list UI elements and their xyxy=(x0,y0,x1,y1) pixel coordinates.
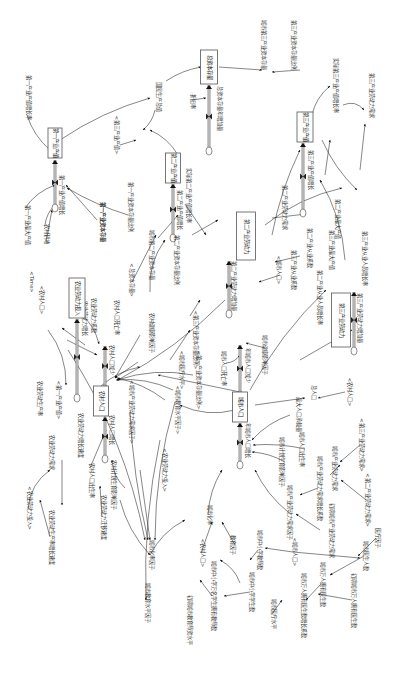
variable-label: <农村人口> xyxy=(346,378,354,407)
variable-label: <第三产业劳动力需求> xyxy=(358,418,366,472)
causal-link-arrow xyxy=(118,300,225,380)
stock-label: 第三产业产值 xyxy=(302,112,310,143)
causal-link-arrow xyxy=(318,392,345,398)
variable-label: 城市万人拥有医生数 xyxy=(319,562,327,608)
variable-label: 农村健康影响因子 xyxy=(148,313,156,353)
variable-label: 城市中小学学生数 xyxy=(248,572,256,613)
flow-label: 第三产业产值增长 xyxy=(307,150,315,191)
variable-label: 国民生产总值 xyxy=(155,82,163,112)
flow-urban_in xyxy=(237,423,243,469)
flow-label: 总资本存量年增加量 xyxy=(216,86,224,131)
variable-label: <农村人口> xyxy=(199,539,207,568)
variable-label: 城市产业劳动力需求增长系数 xyxy=(316,456,324,522)
causal-link-arrow xyxy=(340,445,360,462)
source-cloud-icon xyxy=(102,455,108,463)
variable-label: <第一产业产值> xyxy=(55,381,63,420)
variable-label: 农业劳动生产率 xyxy=(36,381,44,416)
causal-link-arrow xyxy=(272,70,300,72)
causal-link-arrow xyxy=(325,140,330,175)
variable-label: 农村人口出生率 xyxy=(88,463,96,498)
stock-label: 第三产业劳动力 xyxy=(338,303,346,338)
variable-label: 农业劳动力增长速度 xyxy=(77,413,85,458)
source-cloud-icon xyxy=(52,204,58,212)
flow-label: 第三产业劳动力增加量 xyxy=(356,293,364,343)
stock-gdp1: 第一产业产值 xyxy=(48,128,62,159)
causal-link-arrow xyxy=(67,188,128,215)
system-dynamics-diagram: 第一产业产值增长总资本存量年增加量第二产业产值增长第三产业产值增长农业劳动力增长… xyxy=(0,0,400,684)
causal-link-arrow xyxy=(253,445,305,449)
causal-link-arrow xyxy=(341,480,366,500)
variable-label: 城市化率因子 xyxy=(148,540,156,570)
stock-urban: 城市人口 xyxy=(233,392,248,422)
flow-arrowhead-icon xyxy=(206,85,212,89)
causal-link-arrow xyxy=(300,488,318,495)
variable-label: 城市教育水平因子 xyxy=(144,583,152,623)
variable-label: 城市医生人数 xyxy=(362,541,370,572)
variable-label: 城市医疗水平 xyxy=(270,599,278,629)
stock-label: 第二产业产值 xyxy=(170,153,178,184)
variable-label: 农业劳动力系数 xyxy=(90,298,98,334)
flow-arrowhead-icon xyxy=(170,184,176,188)
variable-label: <城市产业劳动力需求因子> xyxy=(128,380,136,444)
variable-label: 农业劳动力迁移速度 xyxy=(100,495,108,540)
variable-label: 城市第二产业资本存量 xyxy=(148,230,156,280)
flow-arrowhead-icon xyxy=(237,345,243,349)
variable-label: 教育因子 xyxy=(229,535,237,555)
variable-label: 农村耕地 xyxy=(43,224,51,244)
flow-arrowhead-icon xyxy=(102,417,108,421)
causal-link-arrow xyxy=(180,405,235,413)
causal-link-arrow xyxy=(306,584,321,600)
variable-label: 第一产业资本存量比例 xyxy=(127,182,135,232)
variable-label: <Time> xyxy=(29,271,35,292)
source-cloud-icon xyxy=(351,347,357,355)
causal-link-arrow xyxy=(150,130,178,155)
stock-label: 第一产业产值 xyxy=(52,128,60,159)
variable-label: 农业劳动力需求 xyxy=(48,435,56,471)
variable-label: <城市人口> xyxy=(275,256,283,285)
variable-label: 城市万人拥有医生数增长系数 xyxy=(300,573,308,639)
variable-label: 第一产业产值增长率 xyxy=(25,75,33,120)
variable-label: <第二产业劳动力需求> xyxy=(364,473,372,527)
causal-link-arrow xyxy=(146,440,160,600)
variable-label: 城市产业劳动力需求 xyxy=(331,446,339,492)
flow-labor3 xyxy=(351,292,357,355)
flow-label: 第二产业劳动力增加量 xyxy=(230,261,238,311)
source-cloud-icon xyxy=(237,461,243,469)
variable-label: 实际第三产业产值增长率 xyxy=(332,58,340,113)
variable-label: 第三产业劳动力需求 xyxy=(368,73,376,119)
flow-urban_out xyxy=(237,345,243,399)
causal-link-arrow xyxy=(40,500,50,537)
variable-label: 城市人口死亡率 xyxy=(220,351,228,386)
variable-label: 农村人口死亡率 xyxy=(113,300,121,335)
causal-link-arrow xyxy=(116,379,173,390)
causal-link-arrow xyxy=(250,550,258,560)
variable-label: <总资本存量> xyxy=(128,263,136,297)
variable-label: 第二产业资本存量比例 xyxy=(173,235,181,285)
variable-label: 城市计划生育影响因子 xyxy=(278,437,286,487)
causal-link-arrow xyxy=(120,140,136,145)
flow-arrowhead-icon xyxy=(52,160,58,164)
variable-label: <城市医疗水平> xyxy=(178,351,186,390)
causal-link-arrow xyxy=(166,67,201,81)
stock-labor3: 第三产业劳动力 xyxy=(332,293,351,347)
causal-link-arrow xyxy=(360,124,365,170)
stock-rural: 农村人口 xyxy=(94,386,109,416)
flow-arrowhead-icon xyxy=(74,319,80,323)
causal-link-arrow xyxy=(226,355,240,363)
variable-label: 第二产业最大产值 xyxy=(334,199,342,239)
flow-arrowhead-icon xyxy=(102,346,108,350)
causal-link-arrow xyxy=(265,548,293,552)
flow-capital xyxy=(206,85,212,155)
causal-link-arrow xyxy=(117,378,165,400)
flow-gdp3 xyxy=(300,143,306,217)
variable-label: 最大人口承载量 xyxy=(295,397,303,432)
variable-label: 第三产业资本存量比例 xyxy=(290,20,298,70)
variable-label: 城市人口出生率 xyxy=(298,432,306,467)
variable-label: 实际第二产业产值增长率 xyxy=(185,168,193,223)
variable-label: 城市产业劳动力需求因子 xyxy=(286,485,294,540)
source-cloud-icon xyxy=(74,394,80,402)
flow-rural_in xyxy=(102,417,108,463)
causal-link-arrow xyxy=(220,560,240,583)
causal-link-arrow xyxy=(140,470,150,540)
stock-label: 农业劳动力投入 xyxy=(74,281,82,317)
